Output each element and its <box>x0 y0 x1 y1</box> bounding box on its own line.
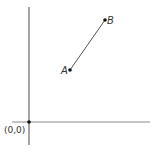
diagram-canvas: (0,0) A B <box>0 0 157 152</box>
point-b-label: B <box>107 15 114 26</box>
coordinate-diagram: (0,0) A B <box>0 0 157 152</box>
segment-ab <box>70 20 105 70</box>
origin-label: (0,0) <box>4 125 25 135</box>
point-a <box>68 68 72 72</box>
origin-point <box>27 120 31 124</box>
point-a-label: A <box>60 65 68 76</box>
